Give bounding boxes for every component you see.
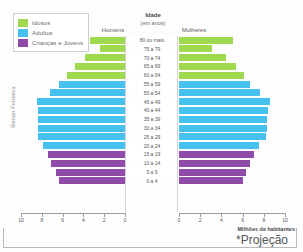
- bar-row: [179, 159, 285, 167]
- bar-left: [43, 142, 125, 149]
- axis-tick-label: 0: [178, 217, 181, 223]
- bar-right: [179, 116, 267, 123]
- bar-row: [179, 133, 285, 141]
- legend-swatch-icon: [18, 19, 28, 27]
- age-band-label: 75 a 79: [127, 45, 177, 53]
- axis-tick: [179, 213, 180, 217]
- bar-row: [179, 168, 285, 176]
- bar-left: [37, 98, 125, 105]
- axis-line: [179, 213, 285, 214]
- axis-tick: [125, 213, 126, 217]
- age-band-label: 0 a 4: [127, 177, 177, 185]
- x-axis-mulheres: 0246810: [179, 213, 285, 225]
- bar-left: [90, 37, 125, 44]
- population-pyramid-figure: Renan Fonseca IdososAdultosCrianças e Jo…: [0, 0, 303, 252]
- bar-right: [179, 133, 266, 140]
- bar-left: [38, 125, 125, 132]
- bar-row: [21, 80, 125, 88]
- legend-item-label: Adultos: [32, 30, 53, 36]
- bars-panel-homens: [21, 36, 125, 212]
- age-band-label: 60 a 64: [127, 71, 177, 79]
- legend-swatch-icon: [18, 29, 28, 37]
- axis-tick: [42, 213, 43, 217]
- bar-left: [67, 72, 125, 79]
- bar-right: [179, 177, 243, 184]
- chart-legend: IdososAdultosCrianças e Jovens: [13, 13, 89, 52]
- axis-line: [21, 213, 125, 214]
- bar-row: [21, 115, 125, 123]
- bar-right: [179, 89, 260, 96]
- axis-tick-label: 6: [61, 217, 64, 223]
- axis-tick-label: 10: [282, 217, 288, 223]
- bar-row: [179, 142, 285, 150]
- bar-row: [179, 115, 285, 123]
- axis-tick-label: 4: [220, 217, 223, 223]
- bar-left: [59, 177, 125, 184]
- axis-tick: [21, 213, 22, 217]
- bar-row: [21, 71, 125, 79]
- bar-right: [179, 98, 270, 105]
- bar-row: [179, 45, 285, 53]
- axis-header-idade: Idade: [126, 12, 180, 18]
- age-band-label: 55 a 59: [127, 80, 177, 88]
- age-band-label: 70 a 74: [127, 54, 177, 62]
- axis-tick-label: 8: [40, 217, 43, 223]
- bar-right: [179, 160, 250, 167]
- bar-row: [179, 62, 285, 70]
- legend-swatch-icon: [18, 39, 28, 47]
- age-band-label: 50 a 54: [127, 89, 177, 97]
- axis-tick-label: 10: [18, 217, 24, 223]
- axis-tick: [83, 213, 84, 217]
- age-band-label: 80 ou mais: [127, 36, 177, 44]
- axis-tick-label: 0: [124, 217, 127, 223]
- bar-left: [50, 89, 125, 96]
- axis-tick-label: 2: [199, 217, 202, 223]
- bar-right: [179, 63, 236, 70]
- bar-left: [85, 54, 125, 61]
- bar-row: [21, 62, 125, 70]
- bar-row: [179, 177, 285, 185]
- bar-left: [38, 116, 125, 123]
- bar-row: [21, 89, 125, 97]
- bar-left: [100, 45, 125, 52]
- bar-right: [179, 81, 250, 88]
- bar-right: [179, 72, 244, 79]
- bar-left: [38, 107, 125, 114]
- bar-right: [179, 151, 254, 158]
- axis-tick: [221, 213, 222, 217]
- bar-row: [179, 106, 285, 114]
- bar-row: [21, 177, 125, 185]
- age-band-label: 65 a 69: [127, 62, 177, 70]
- age-band-label: 15 a 19: [127, 150, 177, 158]
- bar-right: [179, 125, 267, 132]
- legend-item: Crianças e Jovens: [18, 38, 83, 47]
- column-header-homens: Homens: [92, 27, 134, 33]
- bar-row: [21, 54, 125, 62]
- bar-row: [21, 106, 125, 114]
- age-band-label: 40 a 44: [127, 106, 177, 114]
- axis-tick-label: 2: [103, 217, 106, 223]
- bar-row: [21, 133, 125, 141]
- axis-tick: [63, 213, 64, 217]
- bar-right: [179, 45, 212, 52]
- bar-right: [179, 54, 226, 61]
- bar-row: [179, 80, 285, 88]
- axis-tick: [285, 213, 286, 217]
- x-axis-homens: 1086420: [21, 213, 125, 225]
- axis-tick: [243, 213, 244, 217]
- image-credit: Renan Fonseca: [10, 52, 16, 162]
- bar-row: [21, 142, 125, 150]
- center-axis-right: [177, 36, 178, 212]
- age-label-column: 80 ou mais75 a 7970 a 7465 a 6960 a 6455…: [127, 36, 177, 212]
- age-band-label: 10 a 14: [127, 159, 177, 167]
- bar-left: [51, 160, 125, 167]
- age-band-label: 25 a 29: [127, 133, 177, 141]
- bar-left: [56, 169, 125, 176]
- legend-item: Adultos: [18, 28, 83, 37]
- center-axis-left: [125, 36, 126, 212]
- axis-tick-label: 6: [241, 217, 244, 223]
- bar-row: [179, 71, 285, 79]
- bar-row: [179, 54, 285, 62]
- legend-item: Idosos: [18, 18, 83, 27]
- age-band-label: 45 a 49: [127, 98, 177, 106]
